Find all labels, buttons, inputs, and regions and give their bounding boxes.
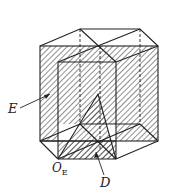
label-d: D	[99, 175, 111, 190]
label-oe-main: O	[52, 161, 62, 175]
crystal-diagram: E OE D	[0, 0, 170, 194]
label-oe: OE	[52, 161, 68, 177]
label-oe-sub: E	[62, 168, 68, 177]
label-e: E	[7, 101, 18, 116]
